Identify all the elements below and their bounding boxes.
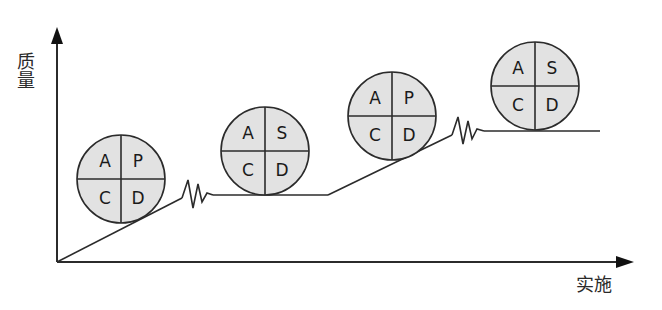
quadrant-top-right: S (277, 123, 288, 143)
pdca-diagram: 质 量 实施 A P C D A S C D A P C D (0, 0, 662, 310)
quadrant-bottom-right: D (545, 95, 558, 115)
pdca-cycle-3: A P C D (348, 72, 436, 160)
quadrant-bottom-right: D (402, 125, 415, 145)
zigzag-1 (182, 180, 213, 208)
quadrant-bottom-left: C (99, 188, 111, 208)
quadrant-top-right: P (404, 88, 414, 108)
quadrant-top-left: A (369, 88, 381, 108)
pdca-cycle-4: A S C D (491, 42, 579, 130)
quadrant-bottom-left: C (512, 95, 524, 115)
x-axis-label: 实施 (576, 274, 612, 295)
quadrant-top-right: S (547, 58, 558, 78)
y-axis-label-2: 量 (17, 70, 35, 91)
quadrant-bottom-right: D (131, 188, 144, 208)
quadrant-top-left: A (242, 123, 254, 143)
quadrant-bottom-left: C (369, 125, 381, 145)
quadrant-top-right: P (133, 151, 143, 171)
pdca-cycle-1: A P C D (77, 135, 165, 223)
quadrant-top-left: A (512, 58, 524, 78)
y-axis-label-1: 质 (17, 51, 35, 72)
quadrant-top-left: A (99, 151, 111, 171)
quadrant-bottom-left: C (242, 160, 254, 180)
x-axis-arrow-icon (616, 256, 634, 268)
pdca-cycle-2: A S C D (221, 107, 309, 195)
zigzag-2 (452, 117, 484, 144)
quadrant-bottom-right: D (275, 160, 288, 180)
y-axis-arrow-icon (51, 27, 63, 44)
